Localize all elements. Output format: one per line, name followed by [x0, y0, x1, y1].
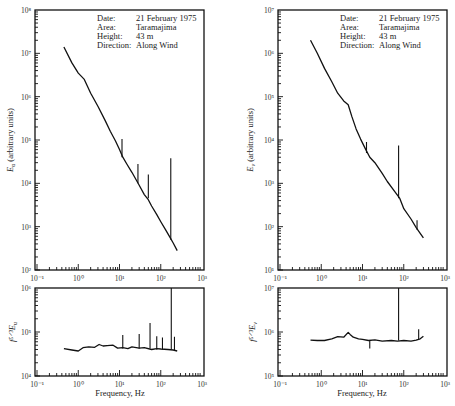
y-tick-label: 10³: [21, 223, 32, 232]
x-tick-label: 10⁻¹: [273, 380, 287, 389]
x-tick-label: 10⁰: [316, 274, 327, 283]
x-tick-label: 10⁰: [73, 380, 84, 389]
annotation-key: Direction:: [97, 40, 131, 50]
right-bottom-y-axis-title: f⁵ᐟ³Ev: [247, 322, 258, 342]
annotation-value: Along Wind: [379, 40, 422, 50]
x-tick-label: 10²: [156, 380, 167, 389]
x-tick-label: 10⁻¹: [273, 274, 287, 283]
x-tick-label: 10²: [399, 274, 410, 283]
x-tick-label: 10³: [440, 274, 451, 283]
x-tick-label: 10³: [197, 274, 208, 283]
x-tick-label: 10⁰: [316, 380, 327, 389]
y-tick-label: 10⁵: [21, 328, 32, 337]
plot-frame: [35, 288, 204, 376]
x-tick-label: 10²: [156, 274, 167, 283]
figure-canvas: 10⁸10⁷10⁶10⁵10⁴10³10²10⁻¹10⁰10¹10²10³Dat…: [0, 0, 455, 406]
data-series-line: [311, 332, 424, 341]
y-tick-label: 10⁶: [21, 284, 32, 293]
data-series-line: [311, 40, 424, 238]
x-tick-label: 10¹: [115, 274, 125, 283]
right-top-y-axis-title: Ev (arbitrary units): [245, 108, 256, 173]
y-tick-label: 10⁴: [264, 136, 275, 145]
left-bottom-y-axis-title: f⁵ᐟ³Eu: [7, 322, 18, 342]
x-tick-label: 10³: [197, 380, 208, 389]
x-tick-label: 10²: [399, 380, 410, 389]
y-tick-label: 10⁴: [21, 179, 32, 188]
left-x-axis-title: Frequency, Hz: [95, 388, 145, 398]
left-top-y-axis-title: Eu (arbitrary units): [5, 108, 16, 173]
y-tick-label: 10⁵: [264, 93, 275, 102]
x-tick-label: 10⁻¹: [30, 274, 44, 283]
data-series-line: [64, 345, 177, 352]
y-tick-label: 10²: [264, 223, 275, 232]
left-bottom-compensated-plot: 10⁶10⁵10⁴10⁻¹10⁰10¹10²10³: [21, 284, 208, 389]
x-tick-label: 10³: [440, 380, 451, 389]
data-series-line: [64, 47, 177, 251]
annotation-key: Direction:: [340, 40, 374, 50]
x-tick-label: 10¹: [358, 274, 368, 283]
y-tick-label: 10⁷: [264, 284, 275, 293]
metadata-annotation: Date:21 February 1975Area:TaramajimaHeig…: [340, 13, 439, 50]
left-top-spectrum-plot: 10⁸10⁷10⁶10⁵10⁴10³10²10⁻¹10⁰10¹10²10³Dat…: [21, 6, 208, 283]
y-tick-label: 10⁶: [264, 328, 275, 337]
y-tick-label: 10⁷: [264, 6, 275, 15]
y-tick-label: 10³: [264, 179, 275, 188]
y-tick-label: 10⁶: [264, 49, 275, 58]
right-x-axis-title: Frequency, Hz: [337, 388, 387, 398]
metadata-annotation: Date:21 February 1975Area:TaramajimaHeig…: [97, 13, 196, 50]
y-tick-label: 10⁶: [21, 93, 32, 102]
right-bottom-compensated-plot: 10⁷10⁶10⁵10⁻¹10⁰10¹10²10³: [264, 284, 451, 389]
y-tick-label: 10⁸: [21, 6, 32, 15]
x-tick-label: 10⁰: [73, 274, 84, 283]
x-tick-label: 10⁻¹: [30, 380, 44, 389]
y-tick-label: 10⁷: [21, 49, 32, 58]
annotation-value: Along Wind: [136, 40, 179, 50]
right-top-spectrum-plot: 10⁷10⁶10⁵10⁴10³10²10¹10⁻¹10⁰10¹10²10³Dat…: [264, 6, 451, 283]
plot-frame: [278, 288, 447, 376]
y-tick-label: 10⁵: [21, 136, 32, 145]
